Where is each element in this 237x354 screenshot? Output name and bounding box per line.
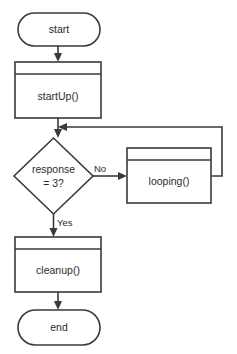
node-start[interactable]: start <box>18 13 100 46</box>
start-label: start <box>49 23 70 35</box>
edge-decision-to-cleanup: Yes <box>50 214 73 237</box>
cleanup-label: cleanup() <box>36 264 80 276</box>
arrow-head-down-icon <box>54 301 62 310</box>
arrow-head-down-icon <box>54 53 62 62</box>
edge-decision-to-looping: No <box>93 163 127 180</box>
arrow-head-down-icon <box>50 228 58 237</box>
arrow-head-right-icon <box>118 172 127 180</box>
node-cleanup[interactable]: cleanup() <box>15 237 101 292</box>
node-startup[interactable]: startUp() <box>15 62 101 118</box>
looping-label: looping() <box>149 175 190 187</box>
node-looping[interactable]: looping() <box>127 148 211 203</box>
decision-label-line2: = 3? <box>43 177 64 189</box>
edge-start-to-startup <box>54 46 62 62</box>
arrow-head-down-icon <box>54 129 62 138</box>
edge-cleanup-to-end <box>54 292 62 310</box>
startup-label: startUp() <box>38 90 79 102</box>
end-label: end <box>50 321 68 333</box>
node-end[interactable]: end <box>18 310 100 345</box>
flowchart-svg: start startUp() response = 3? No <box>0 0 237 354</box>
node-decision[interactable]: response = 3? <box>14 138 93 214</box>
flowchart-canvas: start startUp() response = 3? No <box>0 0 237 354</box>
edge-label-no: No <box>94 163 106 174</box>
decision-label-line1: response <box>32 163 75 175</box>
edge-label-yes: Yes <box>57 217 73 228</box>
